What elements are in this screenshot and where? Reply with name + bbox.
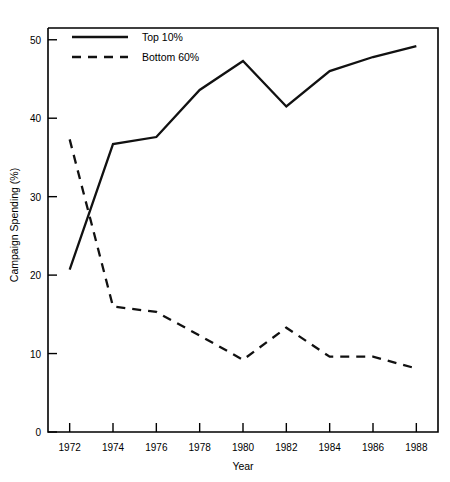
y-tick-label-20: 20 — [30, 270, 42, 281]
x-tick-label-1984: 1984 — [319, 442, 342, 453]
y-tick-label-0: 0 — [35, 427, 41, 438]
x-tick-label-1986: 1986 — [362, 442, 385, 453]
y-tick-label-50: 50 — [30, 35, 42, 46]
chart-container: 01020304050 1972197419761978198019821984… — [0, 0, 450, 482]
x-tick-label-1978: 1978 — [189, 442, 212, 453]
y-tick-label-30: 30 — [30, 192, 42, 203]
y-tick-label-40: 40 — [30, 113, 42, 124]
x-axis-title: Year — [232, 460, 254, 472]
x-tick-label-1982: 1982 — [275, 442, 298, 453]
legend-label-bottom-60: Bottom 60% — [142, 51, 199, 63]
x-tick-label-1972: 1972 — [59, 442, 82, 453]
x-axis-tick-labels: 197219741976197819801982198419861988 — [59, 442, 428, 453]
y-axis-title: Campaign Spending (%) — [8, 168, 20, 282]
x-tick-label-1974: 1974 — [102, 442, 125, 453]
x-tick-label-1976: 1976 — [145, 442, 168, 453]
x-tick-label-1988: 1988 — [405, 442, 428, 453]
x-tick-label-1980: 1980 — [232, 442, 255, 453]
y-tick-label-10: 10 — [30, 349, 42, 360]
line-chart: 01020304050 1972197419761978198019821984… — [0, 0, 450, 482]
legend-label-top-10: Top 10% — [142, 31, 183, 43]
